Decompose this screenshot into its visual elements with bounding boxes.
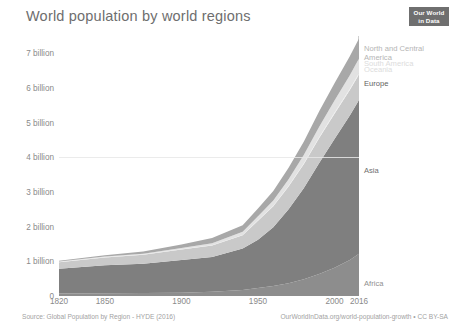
x-axis-tick: 1850 [96,297,114,306]
x-axis-tick: 1950 [249,297,267,306]
series-label-north-and-central-america: North and Central America [364,44,424,62]
source-note: Source: Global Population by Region - HY… [22,313,175,320]
stacked-area-plot [59,36,359,296]
x-axis-tick: 2016 [350,297,368,306]
area-series-group [59,36,359,296]
attribution-note[interactable]: OurWorldInData.org/world-population-grow… [280,313,448,320]
x-axis-tick: 2000 [325,297,343,306]
gridline-4-billion [59,157,359,158]
series-label-europe: Europe [364,79,389,88]
x-axis-tick: 1820 [50,297,68,306]
x-axis-tick: 1900 [172,297,190,306]
chart-container: World population by world regions Our Wo… [0,0,460,334]
series-label-africa: Africa [364,279,383,288]
series-label-asia: Asia [364,166,379,175]
